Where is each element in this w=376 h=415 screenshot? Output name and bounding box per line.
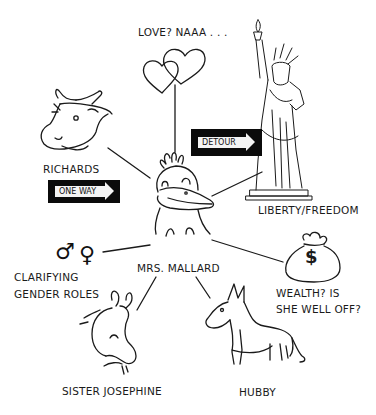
detour-arrow-icon: DETOUR	[198, 137, 246, 148]
node-label-wealth-line1: WEALTH? IS	[276, 287, 340, 300]
node-label-love: LOVE? NAAA . . .	[138, 26, 228, 39]
node-label-wealth-line2: SHE WELL OFF?	[276, 303, 361, 316]
one-way-arrow-icon: ONE WAY	[55, 186, 105, 197]
female-symbol-icon: ♀	[79, 244, 95, 266]
duck-icon	[155, 153, 213, 236]
node-label-richards: RICHARDS	[43, 163, 99, 176]
hearts-icon	[143, 49, 205, 93]
mind-map-canvas: LOVE? NAAA . . . RICHARDS ONE WAY DETOUR…	[0, 0, 376, 415]
one-way-sign: ONE WAY	[48, 180, 120, 203]
node-label-hubby: HUBBY	[239, 386, 276, 399]
cow-icon	[41, 90, 112, 150]
node-label-gender-line2: GENDER ROLES	[14, 288, 99, 301]
detour-sign: DETOUR	[191, 129, 262, 156]
goat-icon	[80, 291, 136, 374]
statue-of-liberty-icon	[246, 20, 312, 200]
male-symbol-icon: ♂	[55, 241, 75, 263]
node-label-sister-josephine: SISTER JOSEPHINE	[62, 385, 162, 398]
node-label-gender-line1: CLARIFYING	[14, 271, 79, 284]
dollar-sign-icon: $	[305, 250, 318, 263]
center-label-mrs-mallard: MRS. MALLARD	[137, 262, 220, 275]
edges	[103, 85, 283, 310]
node-label-liberty: LIBERTY/FREEDOM	[258, 204, 359, 217]
